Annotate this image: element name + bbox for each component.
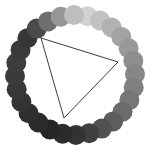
gradient-dot-ring-chart	[0, 0, 152, 158]
ring-dot	[64, 5, 84, 25]
figure-canvas	[0, 0, 152, 158]
